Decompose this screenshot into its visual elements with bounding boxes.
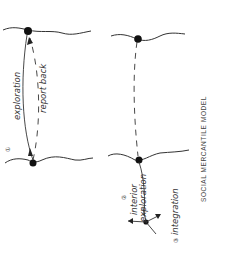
integration-label: integration — [170, 188, 180, 235]
svg-text:exploration: exploration — [12, 72, 22, 120]
exploration-route — [23, 35, 33, 160]
right-panel: ② interior exploration ③ integration — [108, 33, 189, 243]
top-coastline-left — [3, 28, 91, 35]
svg-text:②: ② — [120, 195, 127, 200]
bottom-port-node-left — [30, 160, 37, 167]
dashed-link-route — [134, 42, 138, 156]
step-2-number: ② — [120, 195, 127, 200]
svg-text:SOCIAL MERCANTILE MODEL: SOCIAL MERCANTILE MODEL — [200, 96, 207, 202]
arrowhead-ne-icon — [155, 214, 161, 219]
exploration-label: exploration — [12, 72, 22, 120]
bottom-arrow-stub-icon — [28, 148, 33, 156]
step-1-number: ① — [4, 147, 11, 152]
top-coastline-right — [111, 33, 185, 40]
top-port-node-right — [134, 35, 142, 43]
step-3-number: ③ — [172, 238, 179, 243]
bottom-coastline-left — [5, 157, 93, 163]
diagram-title: SOCIAL MERCANTILE MODEL — [200, 96, 207, 202]
report-back-label: report back — [38, 63, 48, 113]
svg-text:exploration: exploration — [138, 174, 148, 222]
top-port-node-left — [24, 27, 32, 35]
svg-text:③: ③ — [172, 238, 179, 243]
arrowhead-west-icon — [128, 218, 133, 224]
bottom-coastline-right — [108, 150, 189, 160]
svg-text:report back: report back — [38, 63, 48, 113]
social-mercantile-model-diagram: exploration report back ① ② inte — [0, 0, 231, 256]
svg-text:integration: integration — [170, 188, 180, 235]
svg-text:①: ① — [4, 147, 11, 152]
exploration-label-2: exploration — [138, 174, 148, 222]
left-panel: exploration report back ① — [3, 27, 93, 167]
